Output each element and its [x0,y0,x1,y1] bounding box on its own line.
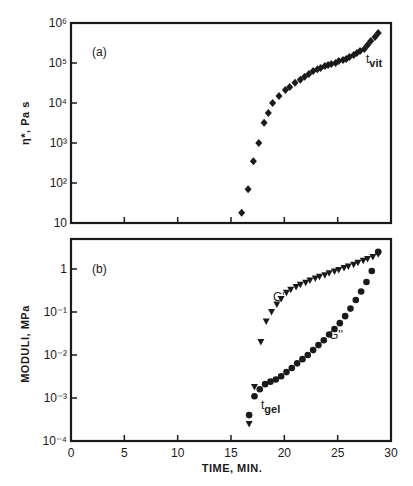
x-tick-label: 0 [68,446,75,460]
triangle-marker [263,319,270,326]
circle-marker [342,313,349,320]
y-tick-label: 10⁻³ [44,391,67,405]
t-gel-annotation: tgel [261,398,280,415]
y-tick-label: 1 [60,262,67,276]
y-tick-label: 10⁻⁴ [42,434,67,448]
series-Gp [246,251,382,427]
circle-marker [358,288,365,295]
circle-marker [315,342,322,349]
x-tick-label: 10 [171,446,185,460]
figure: 1010²10³10⁴10⁵10⁶ 10⁻⁴10⁻³10⁻²10⁻¹105101… [0,0,413,486]
triangle-marker [369,254,376,260]
y-tick-label: 10⁴ [48,96,67,110]
circle-marker [257,386,264,393]
x-tick-label: 20 [278,446,292,460]
diamond-marker [250,157,257,165]
diamond-marker [238,209,245,217]
y-tick-label: 10 [54,216,68,230]
circle-marker [310,347,317,354]
y-axis-title-b: MODULI, MPa [19,305,31,383]
circle-marker [369,268,376,275]
circle-marker [294,360,301,367]
g-double-prime-annotation: G'' [329,328,343,342]
circle-marker [321,337,328,344]
x-tick-label: 15 [224,446,238,460]
t-vit-annotation: tvit [366,52,383,69]
triangle-marker [257,339,264,346]
triangle-marker [268,309,275,316]
circle-marker [283,369,290,376]
diamond-marker [269,99,276,107]
circle-marker [375,249,382,256]
circle-marker [299,356,306,363]
circle-marker [363,279,370,286]
x-tick-label: 25 [331,446,345,460]
diamond-marker [245,185,252,193]
y-axis-title-a: η*, Pa s [19,101,31,145]
series-Gpp [246,249,382,419]
triangle-marker [302,280,309,287]
circle-marker [251,393,258,400]
diamond-marker [261,119,268,127]
diamond-marker [255,139,262,147]
g-prime-annotation: G' [273,290,285,304]
circle-marker [337,320,344,327]
diamond-marker [276,92,283,100]
y-tick-label: 10⁶ [49,16,67,30]
plot-frame [71,23,391,223]
y-tick-label: 10⁵ [49,56,67,70]
panel-a-label: (a) [92,45,107,59]
circle-marker [353,297,360,304]
panel-b-label: (b) [92,262,107,276]
circle-marker [289,365,296,372]
series-η* [238,29,382,217]
x-tick-label: 30 [384,446,398,460]
y-tick-label: 10⁻¹ [44,305,67,319]
circle-marker [246,412,253,419]
triangle-marker [246,421,253,428]
x-axis-title: TIME, MIN. [202,462,263,474]
x-tick-label: 5 [121,446,128,460]
y-tick-label: 10⁻² [44,348,67,362]
y-tick-label: 10² [50,176,67,190]
circle-marker [347,305,354,312]
circle-marker [278,373,285,380]
y-tick-label: 10³ [50,136,67,150]
diamond-marker [265,109,272,117]
circle-marker [305,352,312,359]
